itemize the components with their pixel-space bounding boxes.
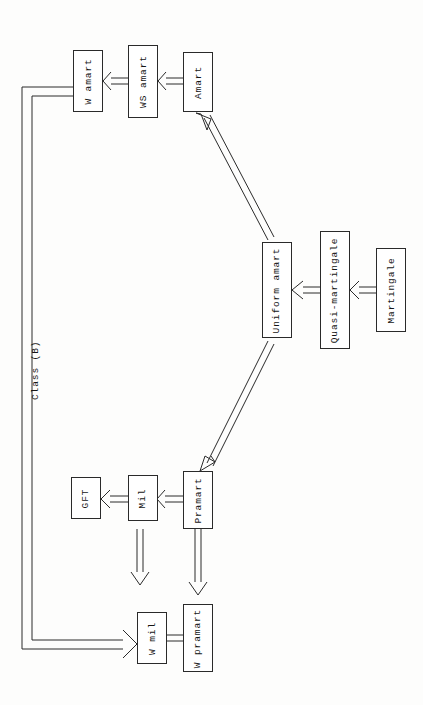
edge-uniform-amart-to-pramart — [200, 341, 274, 471]
node-martingale[interactable]: Martingale — [376, 248, 406, 332]
edge-pramart-to-mil — [157, 490, 183, 508]
edge-amart-to-ws-amart — [158, 72, 183, 90]
edge-ws-amart-to-w-amart — [103, 72, 128, 90]
edge-mil-to-w-mil — [131, 529, 149, 585]
edge-pramart-to-w-pramart — [189, 529, 207, 595]
class-b-annotation: Class (B) — [30, 341, 41, 400]
node-uniform-amart[interactable]: Uniform amart — [262, 242, 292, 338]
node-label: Uniform amart — [272, 247, 283, 333]
edge-quasi-martingale-to-uniform-amart — [292, 281, 320, 299]
node-label: Martingale — [386, 257, 397, 323]
node-label: Mil — [138, 488, 149, 508]
node-quasi-martingale[interactable]: Quasi-martingale — [320, 231, 350, 349]
node-ws-amart[interactable]: WS amart — [128, 45, 158, 118]
node-label: GFT — [81, 488, 92, 508]
node-w-amart[interactable]: W amart — [73, 50, 103, 112]
edge-martingale-to-quasi-martingale — [350, 281, 376, 299]
node-label: W amart — [83, 58, 94, 104]
node-label: Quasi-martingale — [330, 237, 341, 343]
node-amart[interactable]: Amart — [183, 52, 213, 112]
node-label: W mil — [147, 621, 158, 654]
diagram-canvas: W amart WS amart Amart Uniform amart Qua… — [0, 0, 423, 705]
node-label: Pramart — [193, 477, 204, 523]
node-w-pramart[interactable]: W pramart — [183, 604, 213, 672]
node-pramart[interactable]: Pramart — [183, 471, 213, 529]
node-gft[interactable]: GFT — [71, 477, 101, 519]
node-label: WS amart — [138, 55, 149, 108]
edge-uniform-amart-to-amart — [196, 113, 274, 240]
node-w-mil[interactable]: W mil — [137, 612, 167, 664]
node-label: Amart — [193, 65, 204, 98]
node-mil[interactable]: Mil — [128, 475, 158, 521]
edge-mil-to-gft — [101, 490, 128, 508]
node-label: W pramart — [193, 608, 204, 667]
